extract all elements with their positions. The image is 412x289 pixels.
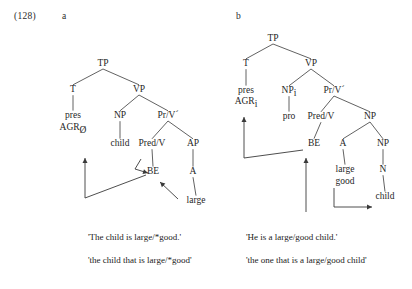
tree-node-a-np: NP — [114, 110, 126, 120]
tree-node-b-large: large — [336, 164, 355, 174]
tree-node-b-t: T — [243, 58, 249, 68]
branch-a-tp-t — [73, 69, 103, 85]
branch-a-vp-np — [120, 95, 139, 111]
tree-node-b-pres: pres — [238, 85, 254, 95]
branch-b-vp-prv — [311, 69, 334, 86]
movement-arrows — [83, 117, 373, 212]
arrow-b-good-to-child-path — [334, 188, 372, 207]
tree-node-a-child: child — [111, 138, 130, 148]
arrow-b-good-to-child-head — [367, 205, 372, 210]
arrow-a-be-to-agr-path — [85, 158, 146, 198]
tree-node-b-np_i: NPi — [282, 85, 297, 98]
tree-node-a-ap: AP — [187, 138, 199, 148]
stem-b-a-large — [343, 149, 345, 164]
syntax-trees-canvas: TPTVPpresAGRØNPPr/V´childPred/VAPBEAlarg… — [0, 0, 412, 289]
tree-node-b-np: NP — [364, 111, 376, 121]
tree-node-b-good: good — [336, 176, 355, 186]
branch-a-vp-prv — [139, 95, 168, 111]
stem-a-predv-be — [152, 149, 153, 166]
syntax-tree-a: TPTVPpresAGRØNPPr/V´childPred/VAPBEAlarg… — [60, 58, 206, 205]
branch-b-tp-t — [246, 44, 273, 59]
stem-a-a-large — [193, 177, 196, 195]
tree-node-a-predv: Pred/V — [139, 138, 166, 148]
tree-node-a-pres: pres — [65, 110, 81, 120]
tree-node-a-vp: VP — [133, 84, 145, 94]
tree-node-b-np2: NP — [377, 138, 389, 148]
gloss-a-line2: 'the child that is large/*good' — [88, 255, 192, 265]
branch-b-vp-np — [289, 69, 311, 86]
arrow-a-be-to-agr-head — [83, 158, 88, 163]
gloss-b-line2: 'the one that is a large/good child' — [246, 255, 367, 265]
tree-node-a-t: T — [70, 84, 76, 94]
branch-b-prv-np — [334, 96, 370, 112]
tree-node-subscript: i — [255, 99, 258, 109]
gloss-a-line1: 'The child is large/*good.' — [88, 232, 181, 242]
tree-node-b-pro: pro — [283, 111, 296, 121]
tree-node-b-prv: Pr/V´ — [323, 85, 344, 95]
tree-node-a-be: BE — [147, 166, 159, 176]
stem-b-n-child — [383, 175, 385, 191]
branch-b-np-a — [343, 122, 370, 139]
tree-node-a-agr: AGRØ — [60, 122, 87, 135]
branch-a-prv-ap — [168, 121, 193, 139]
tree-node-a-large: large — [187, 195, 206, 205]
tree-node-b-vp: VP — [305, 58, 317, 68]
tree-node-b-a: A — [340, 138, 347, 148]
tree-node-b-be: BE — [308, 138, 320, 148]
tree-node-subscript: i — [294, 88, 297, 98]
branch-b-np-np2 — [370, 122, 383, 139]
arrow-b-be-to-agr-path — [244, 117, 303, 158]
arrow-b-np-to-be-head — [304, 158, 309, 163]
tree-node-b-agr: AGRi — [235, 96, 258, 109]
tree-node-b-predv: Pred/V — [308, 111, 335, 121]
arrow-b-be-to-agr-head — [242, 117, 247, 122]
tree-node-a-a: A — [190, 166, 197, 176]
example-figure: (128) a b TPTVPpresAGRØNPPr/V´childPred/… — [0, 0, 412, 289]
tree-node-subscript: Ø — [80, 125, 87, 135]
tree-node-b-child: child — [376, 191, 395, 201]
tree-node-a-prv: Pr/V´ — [157, 110, 178, 120]
syntax-tree-b: TPTVPpresAGRiNPiPr/V´proPred/VNPBEANPlar… — [235, 33, 395, 201]
branch-b-prv-predv — [321, 96, 334, 112]
branch-a-tp-vp — [103, 69, 139, 85]
stem-b-predv-be — [314, 122, 321, 138]
gloss-b-line1: 'He is a large/good child.' — [246, 232, 337, 242]
branch-b-tp-vp — [273, 44, 311, 59]
branch-a-prv-predv — [152, 121, 168, 139]
tree-node-a-tp: TP — [97, 58, 108, 68]
tree-node-b-tp: TP — [267, 33, 278, 43]
tree-node-b-n: N — [380, 164, 387, 174]
